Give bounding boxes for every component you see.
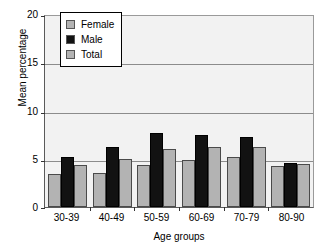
bar-male-80-90 <box>284 163 297 207</box>
legend-label-male: Male <box>81 35 103 45</box>
bar-female-80-90 <box>271 166 284 207</box>
y-tick-label: 0 <box>16 203 38 213</box>
x-tick-mark <box>224 207 225 211</box>
bar-group <box>224 16 269 207</box>
y-tick-label: 5 <box>16 155 38 165</box>
y-tick-label: 10 <box>16 107 38 117</box>
bar-male-50-59 <box>150 133 163 207</box>
bar-male-30-39 <box>61 157 74 207</box>
legend-swatch-total <box>66 50 75 59</box>
bar-male-40-49 <box>106 147 119 207</box>
bar-total-60-69 <box>208 147 221 207</box>
bar-chart: Mean percentage 05101520 30-3940-4950-59… <box>0 0 323 252</box>
x-tick-label: 60-69 <box>179 212 224 223</box>
x-tick-mark <box>90 207 91 211</box>
bar-male-60-69 <box>195 135 208 207</box>
legend-item-total: Total <box>66 47 114 62</box>
x-axis-title: Age groups <box>44 231 314 242</box>
bar-female-60-69 <box>182 160 195 207</box>
x-tick-mark <box>179 207 180 211</box>
legend: FemaleMaleTotal <box>60 12 122 67</box>
bar-total-30-39 <box>74 165 87 207</box>
bar-group <box>179 16 224 207</box>
x-tick-mark <box>134 207 135 211</box>
legend-swatch-male <box>66 35 75 44</box>
bar-female-40-49 <box>93 173 106 207</box>
bar-female-50-59 <box>137 165 150 207</box>
bar-female-30-39 <box>48 174 61 207</box>
y-tick-mark <box>41 208 45 209</box>
x-tick-label: 70-79 <box>224 212 269 223</box>
bar-male-70-79 <box>240 137 253 207</box>
bar-total-50-59 <box>163 149 176 207</box>
y-axis-tick-labels: 05101520 <box>16 15 38 208</box>
x-tick-label: 30-39 <box>44 212 89 223</box>
legend-label-total: Total <box>81 50 102 60</box>
x-axis-tick-labels: 30-3940-4950-5960-6970-7980-90 <box>44 212 314 223</box>
legend-item-female: Female <box>66 17 114 32</box>
bar-total-80-90 <box>297 164 310 207</box>
x-tick-label: 80-90 <box>269 212 314 223</box>
bar-total-40-49 <box>119 159 132 207</box>
legend-item-male: Male <box>66 32 114 47</box>
x-tick-mark <box>268 207 269 211</box>
bar-total-70-79 <box>253 147 266 207</box>
x-tick-label: 50-59 <box>134 212 179 223</box>
y-tick-label: 15 <box>16 58 38 68</box>
y-tick-label: 20 <box>16 10 38 20</box>
bar-group <box>268 16 313 207</box>
legend-label-female: Female <box>81 20 114 30</box>
legend-swatch-female <box>66 20 75 29</box>
x-tick-label: 40-49 <box>89 212 134 223</box>
bar-female-70-79 <box>227 157 240 207</box>
bar-group <box>134 16 179 207</box>
